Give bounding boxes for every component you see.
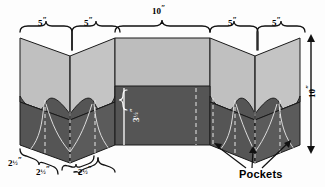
dim-label-top-left-5a: 5″ bbox=[38, 17, 46, 28]
pattern-illustration bbox=[0, 0, 325, 187]
dim-label-top-center-10: 10″ bbox=[152, 5, 165, 16]
diagram-canvas: 5″ 5″ 10″ 5″ 5″ 10″ 3½″ 2½″ 2½″ 2½″ Pock… bbox=[0, 0, 325, 187]
brace-top-center-10 bbox=[115, 20, 210, 32]
dim-label-top-right-5a: 5″ bbox=[228, 17, 236, 28]
dim-label-height-10: 10″ bbox=[306, 85, 317, 98]
dim-label-bottom-2: 2½″ bbox=[36, 166, 50, 177]
dim-label-top-left-5b: 5″ bbox=[84, 17, 92, 28]
dim-label-top-right-5b: 5″ bbox=[272, 17, 280, 28]
dim-label-bottom-1: 2½″ bbox=[8, 157, 22, 168]
dim-label-pocket-depth: 3½″ bbox=[130, 108, 141, 122]
pockets-label: Pockets bbox=[239, 169, 283, 180]
dim-label-bottom-3: 2½″ bbox=[78, 166, 92, 177]
